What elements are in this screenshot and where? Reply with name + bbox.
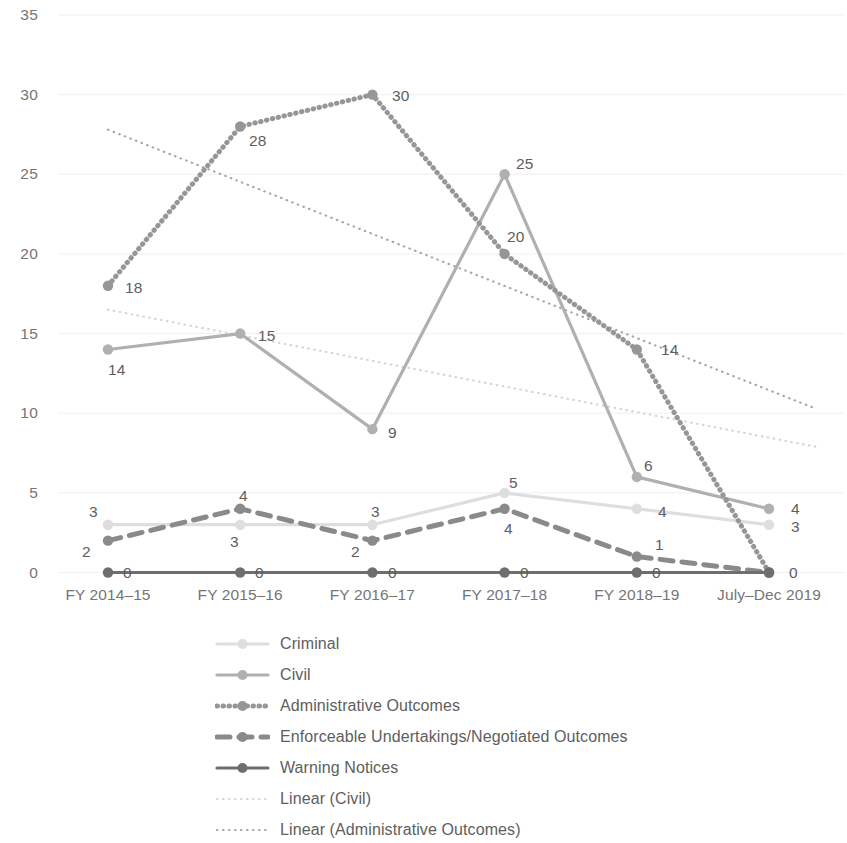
data-point-label: 0 [652,564,661,582]
data-point-label: 1 [655,536,664,554]
legend-label: Linear (Civil) [280,790,371,808]
y-axis-tick-label: 25 [4,165,38,183]
data-point-marker [235,567,245,577]
legend-key-icon [215,790,270,808]
data-point-label: 2 [82,543,91,561]
legend-item[interactable]: Enforceable Undertakings/Negotiated Outc… [215,721,775,752]
data-point-marker [632,472,642,482]
legend-key-icon [215,635,270,653]
data-point-label: 4 [791,500,800,518]
data-point-label: 4 [658,503,667,521]
legend-item[interactable]: Administrative Outcomes [215,690,775,721]
legend-label: Civil [280,666,311,684]
data-point-label: 0 [388,564,397,582]
data-point-marker [235,520,245,530]
legend-item[interactable]: Warning Notices [215,752,775,783]
trendline [108,310,815,447]
data-point-marker [103,535,113,545]
data-point-label: 14 [661,341,679,359]
data-point-marker [235,504,245,514]
y-axis-tick-label: 10 [4,404,38,422]
data-point-label: 2 [351,543,360,561]
y-axis-tick-label: 0 [4,564,38,582]
y-axis-tick-label: 15 [4,325,38,343]
data-point-marker [367,424,377,434]
legend-label: Administrative Outcomes [280,697,460,715]
x-axis-tick-label: July–Dec 2019 [717,586,821,604]
legend-key-icon [215,697,270,715]
data-point-marker [103,567,113,577]
y-axis-tick-label: 20 [4,245,38,263]
legend-key-icon [215,728,270,746]
data-point-marker [367,89,377,99]
y-axis-tick-label: 30 [4,86,38,104]
data-point-label: 3 [89,503,98,521]
y-axis-tick-label: 5 [4,484,38,502]
x-axis-tick-label: FY 2015–16 [198,586,283,604]
data-point-label: 0 [789,564,798,582]
x-axis-tick-label: FY 2014–15 [65,586,150,604]
data-point-marker [235,328,245,338]
data-point-marker [632,551,642,561]
data-point-marker [367,535,377,545]
legend-key-icon [215,759,270,777]
data-point-label: 3 [230,533,239,551]
legend-label: Enforceable Undertakings/Negotiated Outc… [280,728,628,746]
chart-canvas [0,0,847,600]
data-point-marker [764,504,774,514]
legend-item[interactable]: Civil [215,659,775,690]
data-point-marker [103,281,113,291]
data-point-marker [499,249,509,259]
legend-label: Linear (Administrative Outcomes) [280,821,521,839]
data-point-marker [499,169,509,179]
legend-item[interactable]: Criminal [215,628,775,659]
legend-label: Criminal [280,635,339,653]
data-point-label: 3 [371,503,380,521]
x-axis-tick-label: FY 2018–19 [594,586,679,604]
trendline [108,130,815,409]
data-point-label: 4 [504,520,513,538]
data-point-marker [632,504,642,514]
series-line [108,509,769,573]
data-point-marker [367,567,377,577]
data-point-label: 0 [255,564,264,582]
plot-area [0,0,847,600]
data-point-label: 20 [507,228,525,246]
data-point-label: 28 [249,132,267,150]
line-chart: 05101520253035 FY 2014–15FY 2015–16FY 20… [0,0,847,843]
data-point-label: 4 [239,487,248,505]
data-point-label: 9 [388,424,397,442]
data-point-marker [764,567,774,577]
data-point-label: 6 [644,457,653,475]
legend-item[interactable]: Linear (Civil) [215,783,775,814]
data-point-marker [235,121,245,131]
data-point-marker [103,520,113,530]
legend-item[interactable]: Linear (Administrative Outcomes) [215,814,775,843]
data-point-label: 30 [392,87,410,105]
chart-legend: CriminalCivilAdministrative OutcomesEnfo… [215,628,775,843]
legend-label: Warning Notices [280,759,398,777]
data-point-marker [764,520,774,530]
data-point-marker [632,567,642,577]
legend-key-icon [215,666,270,684]
legend-key-icon [215,821,270,839]
data-point-marker [499,567,509,577]
data-point-label: 14 [108,361,126,379]
y-axis-tick-label: 35 [4,6,38,24]
data-point-marker [632,344,642,354]
data-point-marker [499,504,509,514]
data-point-label: 18 [125,279,143,297]
data-point-label: 15 [258,327,276,345]
data-point-marker [103,344,113,354]
data-point-label: 3 [791,518,800,536]
x-axis-tick-label: FY 2017–18 [462,586,547,604]
data-point-marker [367,520,377,530]
series-line [108,493,769,525]
data-point-label: 5 [509,474,518,492]
data-point-label: 25 [516,155,534,173]
data-point-label: 0 [123,564,132,582]
x-axis-tick-label: FY 2016–17 [330,586,415,604]
data-point-label: 0 [520,564,529,582]
